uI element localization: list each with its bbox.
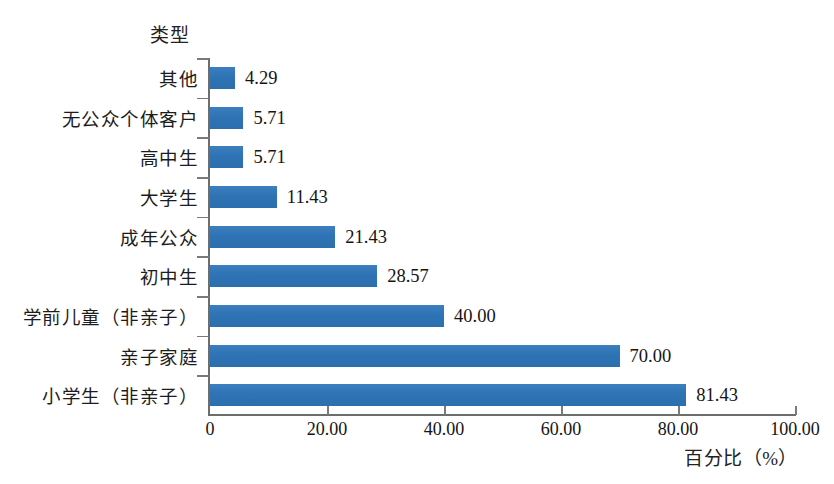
x-axis-tick-label: 100.00 (770, 419, 820, 440)
x-axis-tick (327, 406, 329, 415)
bar-chart: 类型 其他4.29无公众个体客户5.71高中生5.71大学生11.43成年公众2… (0, 0, 834, 484)
x-axis-tick (561, 406, 563, 415)
x-axis-tick-label: 60.00 (541, 419, 582, 440)
x-axis-tick-label: 40.00 (424, 419, 465, 440)
x-axis-tick-label: 20.00 (307, 419, 348, 440)
x-axis-tick-label: 80.00 (658, 419, 699, 440)
x-axis-ticks: 020.0040.0060.0080.00100.00 (0, 0, 834, 484)
x-axis-tick (795, 406, 797, 415)
x-axis-tick-label: 0 (206, 419, 215, 440)
x-axis-title: 百分比（%） (684, 443, 798, 470)
x-axis-tick (678, 406, 680, 415)
x-axis-tick (444, 406, 446, 415)
